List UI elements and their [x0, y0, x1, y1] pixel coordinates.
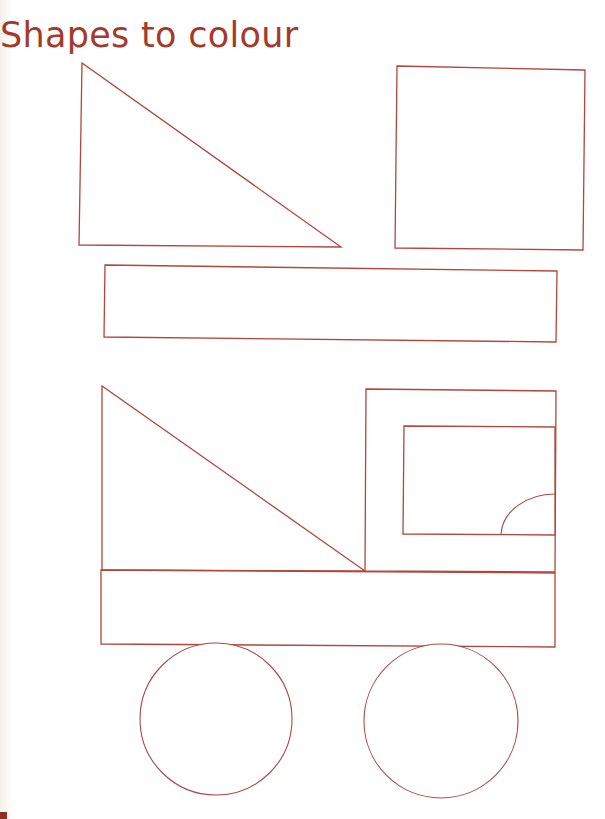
- triangle-shape[interactable]: [79, 63, 341, 247]
- front-wheel-circle[interactable]: [140, 643, 292, 795]
- truck-window[interactable]: [403, 426, 555, 535]
- rear-wheel-circle[interactable]: [364, 644, 518, 798]
- truck-picture: [101, 386, 556, 798]
- truck-load-triangle[interactable]: [102, 386, 365, 571]
- shapes-drawing: [0, 0, 605, 819]
- rectangle-shape[interactable]: [104, 265, 557, 342]
- truck-body[interactable]: [101, 570, 555, 647]
- square-shape[interactable]: [395, 66, 585, 250]
- cropped-footer-text: [0, 811, 605, 819]
